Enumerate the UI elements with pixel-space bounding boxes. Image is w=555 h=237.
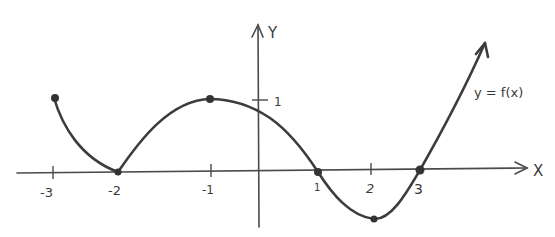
point-neg3 (51, 94, 59, 102)
point-1 (314, 168, 322, 176)
marked-points (51, 94, 425, 223)
x-axis-label: X (533, 162, 543, 180)
x-tick-label-neg1: -1 (202, 183, 214, 197)
function-graph: X Y -3 -2 -1 1 2 3 1 y = f(x) (0, 0, 555, 237)
x-tick-label-2: 2 (366, 181, 374, 196)
x-tick-label-1: 1 (314, 182, 320, 193)
x-tick-label-neg2: -2 (108, 183, 121, 198)
x-tick-label-3: 3 (414, 181, 423, 197)
function-label: y = f(x) (474, 85, 523, 100)
point-3 (416, 166, 425, 175)
x-axis (17, 162, 527, 174)
point-2 (371, 216, 378, 223)
point-neg1 (206, 95, 214, 103)
point-neg2 (115, 169, 122, 176)
y-tick-label-1: 1 (274, 95, 282, 109)
y-axis-label: Y (267, 24, 278, 42)
y-axis (252, 25, 263, 227)
x-tick-label-neg3: -3 (40, 185, 53, 200)
